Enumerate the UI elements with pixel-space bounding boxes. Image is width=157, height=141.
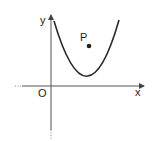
origin-label: O bbox=[38, 87, 47, 99]
coordinate-diagram: y O x P bbox=[0, 0, 157, 141]
point-p-label: P bbox=[80, 31, 87, 43]
parabola-curve bbox=[54, 20, 119, 76]
x-axis-label: x bbox=[135, 86, 141, 98]
y-axis-label: y bbox=[40, 14, 46, 26]
point-p-dot bbox=[87, 44, 92, 49]
